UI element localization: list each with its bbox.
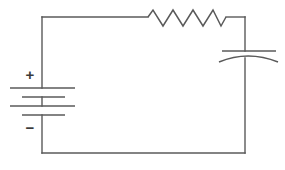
resistor-zigzag bbox=[148, 10, 226, 26]
battery-negative-label: − bbox=[26, 119, 35, 136]
battery-positive-label: + bbox=[26, 66, 35, 83]
circuit-diagram-canvas: + − bbox=[0, 0, 285, 170]
circuit-schematic: + − bbox=[0, 0, 285, 170]
capacitor-curved-plate bbox=[219, 56, 278, 62]
